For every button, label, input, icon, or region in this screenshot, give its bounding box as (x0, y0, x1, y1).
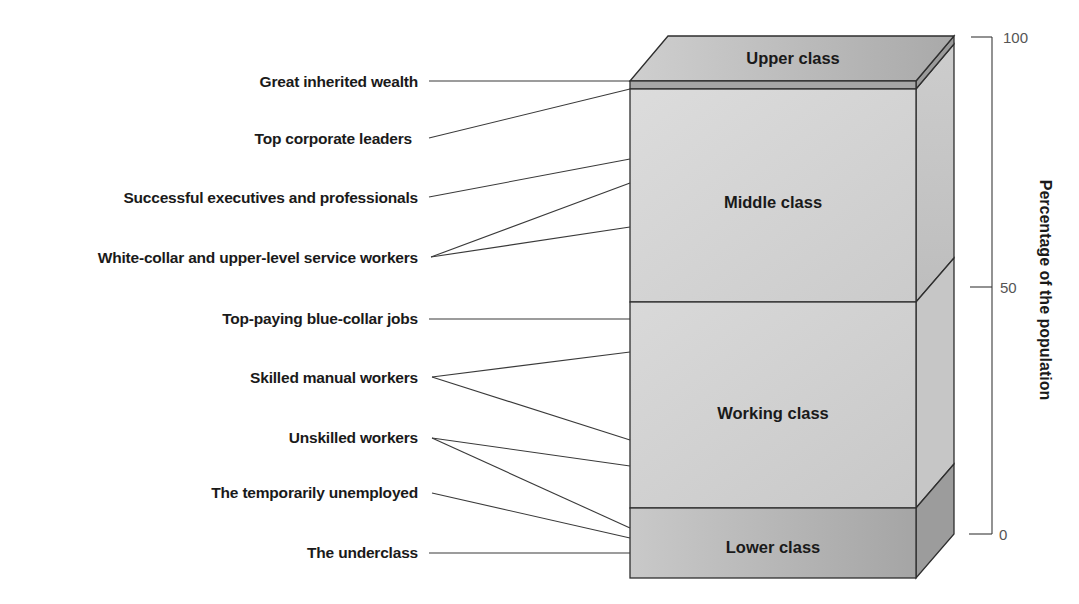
connector-successful-executives (429, 159, 630, 197)
axis-tick-label-100: 100 (1003, 29, 1028, 46)
working-class-label: Working class (717, 404, 829, 422)
label-great-inherited-wealth: Great inherited wealth (260, 73, 418, 90)
upper-class-label: Upper class (746, 49, 840, 67)
label-successful-executives: Successful executives and professionals (123, 189, 418, 206)
class-structure-diagram: Upper class Middle class Working class L… (0, 0, 1079, 604)
label-white-collar-workers: White-collar and upper-level service wor… (98, 249, 418, 266)
lower-class-label: Lower class (726, 538, 820, 556)
connector-skilled-manual-b (432, 377, 630, 440)
upper-class-front (630, 81, 916, 89)
label-top-corporate-leaders: Top corporate leaders (255, 130, 412, 147)
label-underclass: The underclass (307, 544, 418, 561)
axis-title: Percentage of the population (1037, 180, 1054, 400)
connector-white-collar-b (431, 227, 630, 257)
label-temporarily-unemployed: The temporarily unemployed (211, 484, 418, 501)
label-skilled-manual-workers: Skilled manual workers (250, 369, 418, 386)
connector-temporarily-unemployed (432, 493, 630, 538)
middle-class-label: Middle class (724, 193, 822, 211)
connector-lines (429, 81, 630, 553)
connector-skilled-manual-a (432, 352, 630, 377)
axis-tick-label-50: 50 (1000, 279, 1017, 296)
axis-tick-label-0: 0 (999, 526, 1007, 543)
label-top-paying-blue-collar: Top-paying blue-collar jobs (222, 310, 418, 327)
population-axis: 100 50 0 Percentage of the population (969, 29, 1054, 543)
connector-top-corporate-leaders (429, 89, 630, 138)
occupation-labels: Great inherited wealth Top corporate lea… (98, 73, 418, 561)
label-unskilled-workers: Unskilled workers (289, 429, 418, 446)
connector-white-collar-a (431, 183, 630, 257)
class-block: Upper class Middle class Working class L… (630, 36, 954, 578)
